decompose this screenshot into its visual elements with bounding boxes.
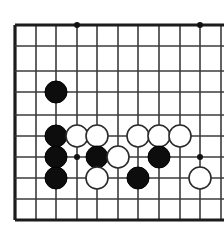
white-stone[interactable]: [169, 125, 191, 147]
white-stone[interactable]: [107, 146, 129, 168]
black-stone[interactable]: [45, 167, 67, 189]
star-point-marker: [74, 154, 80, 160]
white-stone[interactable]: [127, 125, 149, 147]
grid-vertical-lines: [15, 25, 221, 220]
black-stone[interactable]: [86, 146, 108, 168]
white-stone[interactable]: [86, 125, 108, 147]
star-point-marker: [74, 22, 80, 28]
star-point-marker: [197, 154, 203, 160]
black-stone[interactable]: [45, 146, 67, 168]
go-board-canvas[interactable]: [0, 0, 224, 234]
star-point-marker: [197, 22, 203, 28]
white-stone[interactable]: [189, 167, 211, 189]
white-stone[interactable]: [66, 125, 88, 147]
black-stone[interactable]: [127, 167, 149, 189]
go-board-diagram: [0, 0, 224, 234]
grid-horizontal-lines: [15, 25, 224, 220]
stone-layer: [45, 81, 211, 189]
white-stone[interactable]: [86, 167, 108, 189]
white-stone[interactable]: [148, 125, 170, 147]
black-stone[interactable]: [148, 146, 170, 168]
black-stone[interactable]: [45, 125, 67, 147]
black-stone[interactable]: [45, 81, 67, 103]
